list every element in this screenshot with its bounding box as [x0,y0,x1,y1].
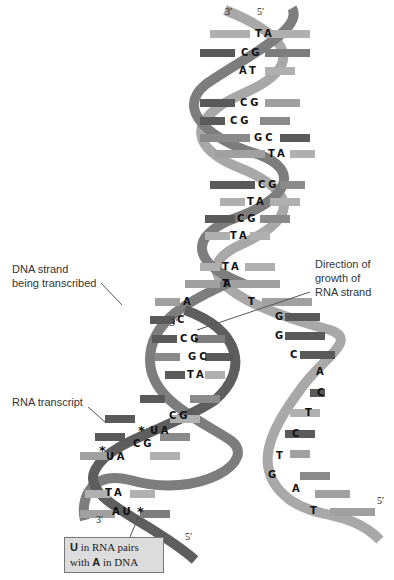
end-label-3prime-top: 3′ [225,6,232,17]
coding-base: G [268,469,279,480]
hybrid-pair: UA [106,451,128,462]
base-pair: CG [240,97,262,108]
hybrid-pair: CG [169,410,191,421]
coding-base: T [276,450,286,461]
rna-transcript-label: RNA transcript [12,395,83,409]
coding-base: C [292,428,302,439]
dna-strand-pointer [101,283,122,305]
end-label-5prime-top: 5′ [257,6,264,17]
hybrid-pair: TA [187,369,207,380]
dna-transcription-diagram: 3′ 5′ 3′ 3′ 5′ 5′ TA CG AT CG CG GC TA C… [0,0,394,580]
base-pair: AT [239,65,259,76]
asterisk-marker: * [137,504,147,519]
end-label-5prime-bottom-mid: 5′ [185,531,192,542]
coding-base: G [275,311,286,322]
coding-base: C [290,349,300,360]
template-base: A [183,296,194,307]
dna-strand-label: DNA strand being transcribed [12,262,96,290]
end-label-3prime-bottom: 3′ [96,514,103,525]
base-pair: TA [255,28,275,39]
coding-base: C [317,387,327,398]
base-pair: TA [222,261,242,272]
base-pair: TA [268,148,288,159]
rna-transcript-pointer [88,407,105,422]
hybrid-pair: AU [112,506,134,517]
base-pair: TA [247,196,267,207]
coding-base: T [310,505,320,516]
base-pair: CG [230,115,252,126]
hybrid-pair: UA [150,425,172,436]
hybrid-pair: GC [188,351,210,362]
template-base: C [177,314,187,325]
coding-base: T [222,278,232,289]
coding-base: G [275,330,286,341]
base-pair: CG [258,179,280,190]
asterisk-marker: * [99,443,109,458]
base-pair: CG [241,47,263,58]
hybrid-pair: CG [133,438,155,449]
callout-box: U in RNA pairs with A in DNA [64,537,164,573]
coding-base: A [292,483,303,494]
coding-base: T [305,407,315,418]
direction-label: Direction of growth of RNA strand [315,257,371,299]
base-pair: TA [230,230,250,241]
base-pair: GC [254,132,276,143]
asterisk-marker: * [138,423,148,438]
hybrid-pair: CG [180,333,202,344]
coding-base: T [248,296,258,307]
end-label-5prime-bottom-right: 5′ [377,495,384,506]
base-pair: CG [237,213,259,224]
coding-base: A [316,366,327,377]
hybrid-pair: TA [105,487,125,498]
